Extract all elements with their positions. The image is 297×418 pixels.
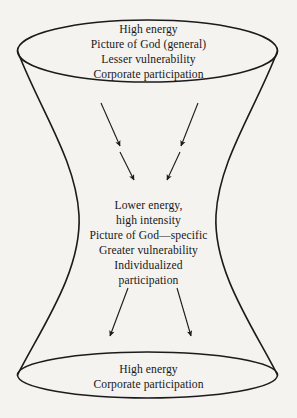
figure-background [0, 0, 297, 418]
hyperboloid-figure [0, 0, 297, 418]
diagram-canvas: High energy Picture of God (general) Les… [0, 0, 297, 418]
